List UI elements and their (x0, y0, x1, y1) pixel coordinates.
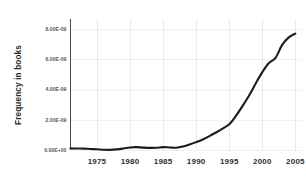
y-axis-tick-label: 8.00E-09 (45, 26, 66, 32)
y-axis-title: Frequency in books (14, 45, 23, 125)
x-axis-tick-label: 1995 (220, 157, 239, 166)
y-axis-tick-labels: 0.00E+002.00E-094.00E-096.00E-098.00E-09 (44, 26, 66, 153)
plot-background (70, 20, 302, 150)
y-axis-tick-label: 6.00E-09 (45, 56, 66, 62)
x-axis-tick-labels: 1975198019851990199520002005 (88, 157, 305, 166)
x-axis-tick-label: 1985 (154, 157, 173, 166)
y-axis-tick-label: 0.00E+00 (44, 147, 66, 153)
x-axis-tick-label: 1975 (88, 157, 107, 166)
chart-container: 0.00E+002.00E-094.00E-096.00E-098.00E-09… (0, 0, 306, 181)
x-axis-tick-label: 2005 (286, 157, 305, 166)
x-axis-tick-label: 1990 (187, 157, 206, 166)
y-axis-tick-label: 4.00E-09 (45, 86, 66, 92)
y-axis-tick-label: 2.00E-09 (45, 117, 66, 123)
svg-text:Frequency in books: Frequency in books (14, 45, 23, 125)
x-axis-tick-label: 2000 (253, 157, 272, 166)
frequency-line-chart: 0.00E+002.00E-094.00E-096.00E-098.00E-09… (0, 0, 306, 181)
x-axis-tick-label: 1980 (121, 157, 140, 166)
